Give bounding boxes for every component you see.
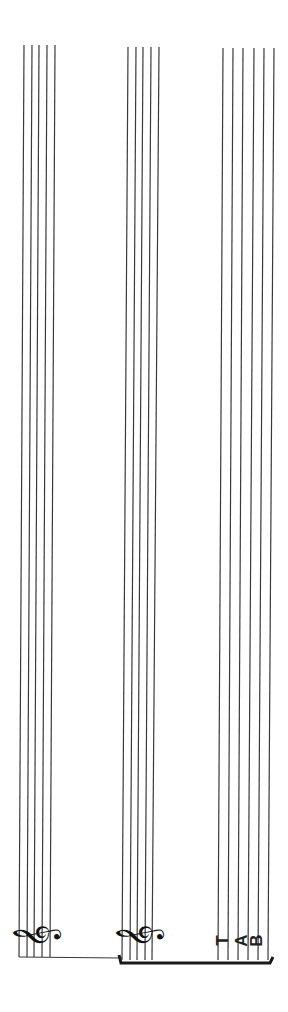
staff-1-line <box>50 45 55 957</box>
treble-clef-icon: 𝄞 <box>118 913 164 959</box>
tab-staff-line <box>238 48 243 960</box>
tab-clef-letter-t: T <box>214 934 231 948</box>
tab-staff-line <box>258 48 264 960</box>
staff-1-line <box>27 45 32 957</box>
tab-staff <box>218 48 274 960</box>
staff-2-line <box>122 47 128 960</box>
staff-2 <box>122 47 159 960</box>
staff-1 <box>19 45 55 957</box>
tab-staff-line <box>218 48 223 960</box>
tab-staff-line <box>268 48 274 960</box>
tab-staff-line <box>248 48 254 960</box>
treble-clef-icon: 𝄞 <box>15 913 61 959</box>
staff-1-line <box>19 45 24 957</box>
staff-1-line <box>34 45 39 957</box>
staff-2-line <box>152 47 159 960</box>
staff-2-line <box>145 47 151 960</box>
staff-2-line <box>137 47 143 960</box>
staff-2-line <box>130 47 136 960</box>
score-page <box>0 0 288 1012</box>
staff-1-line <box>42 45 47 957</box>
tab-staff-line <box>228 48 233 960</box>
tab-clef-letter-b: B <box>248 934 265 948</box>
